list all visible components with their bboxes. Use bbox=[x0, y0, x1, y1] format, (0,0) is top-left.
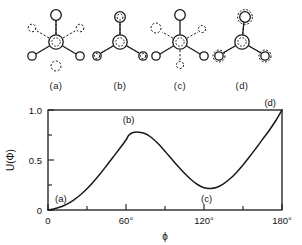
curve-point-label-c: (c) bbox=[201, 193, 212, 204]
y-tick-label: 1.0 bbox=[29, 105, 42, 116]
curve-point-label-b: (b) bbox=[123, 114, 135, 125]
x-tick-label: 180° bbox=[272, 215, 292, 226]
potential-energy-curve bbox=[48, 110, 282, 210]
front-substituent bbox=[215, 52, 223, 60]
curve-point-label-a: (a) bbox=[55, 193, 67, 204]
back-carbon-b bbox=[116, 38, 124, 46]
front-substituent bbox=[152, 52, 160, 60]
front-substituent bbox=[28, 52, 36, 60]
x-tick-label: 60° bbox=[119, 215, 134, 226]
front-substituent bbox=[115, 12, 126, 23]
back-substituent bbox=[28, 24, 36, 32]
back-carbon-c bbox=[176, 38, 184, 46]
x-tick-label: 120° bbox=[194, 215, 214, 226]
x-tick-label: 0 bbox=[45, 215, 50, 226]
x-tick-marks bbox=[48, 204, 282, 210]
x-axis-label: ϕ bbox=[162, 231, 168, 242]
conformer-row: (a) bbox=[0, 0, 302, 95]
front-substituent bbox=[261, 52, 269, 60]
conformer-d-label: (d) bbox=[204, 80, 280, 91]
front-substituent bbox=[240, 12, 251, 23]
front-substituent bbox=[51, 10, 62, 21]
conformer-d: (d) bbox=[204, 6, 280, 74]
back-carbon-a bbox=[52, 38, 60, 46]
y-tick-labels: 00.51.0 bbox=[29, 105, 42, 216]
back-substituent bbox=[176, 61, 183, 68]
y-tick-marks bbox=[48, 110, 54, 210]
energy-plot: 060°120°180° 00.51.0 (a)(b)(c)(d) ϕ U(Φ) bbox=[0, 98, 302, 245]
back-carbon-d bbox=[238, 38, 246, 46]
back-substituent bbox=[151, 23, 161, 33]
y-tick-label: 0.5 bbox=[29, 155, 42, 166]
x-tick-labels: 060°120°180° bbox=[45, 215, 292, 226]
front-substituent bbox=[175, 10, 186, 21]
y-tick-label: 0 bbox=[37, 205, 42, 216]
torsional-potential-figure: (a) bbox=[0, 0, 302, 245]
y-axis-label: U(Φ) bbox=[5, 149, 16, 171]
back-substituent bbox=[51, 61, 61, 71]
curve-point-label-d: (d) bbox=[264, 97, 276, 108]
